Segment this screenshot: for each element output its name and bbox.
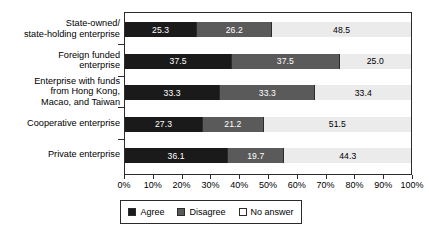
category-label: Enterprise with funds from Hong Kong, Ma… — [0, 76, 120, 107]
bar-value-label: 36.1 — [168, 151, 185, 161]
x-axis-tick-mark — [210, 175, 211, 179]
bar-segment-no-answer: 25.0 — [340, 54, 412, 69]
bar-row: 33.333.333.4 — [125, 85, 411, 100]
chart-legend: AgreeDisagreeNo answer — [120, 200, 302, 224]
x-axis-tick-label: 80% — [345, 180, 363, 190]
bar-segment-disagree: 37.5 — [232, 54, 339, 69]
bar-value-label: 25.0 — [367, 56, 384, 66]
bar-segment-no-answer: 48.5 — [272, 22, 411, 37]
x-axis-tick-label: 20% — [173, 180, 191, 190]
category-label: Cooperative enterprise — [0, 118, 120, 128]
bar-row: 36.119.744.3 — [125, 148, 411, 163]
bar-segment-disagree: 19.7 — [228, 148, 284, 163]
x-axis-tick-mark — [383, 175, 384, 179]
bar-segment-no-answer: 51.5 — [264, 117, 411, 132]
category-label: Private enterprise — [0, 149, 120, 159]
bar-value-label: 48.5 — [333, 25, 350, 35]
x-axis-tick-mark — [268, 175, 269, 179]
x-axis-tick-mark — [124, 175, 125, 179]
legend-label: Disagree — [189, 207, 225, 217]
x-axis-tick-mark — [239, 175, 240, 179]
bar-row: 25.326.248.5 — [125, 22, 411, 37]
bar-segment-agree: 25.3 — [125, 22, 197, 37]
legend-swatch-disagree — [177, 208, 185, 216]
legend-item-disagree: Disagree — [177, 207, 225, 217]
bar-value-label: 19.7 — [247, 151, 264, 161]
bar-value-label: 51.5 — [329, 119, 346, 129]
x-axis-tick-label: 90% — [374, 180, 392, 190]
bar-segment-agree: 27.3 — [125, 117, 203, 132]
x-axis-tick-label: 0% — [117, 180, 130, 190]
x-axis-tick-label: 70% — [317, 180, 335, 190]
bar-segment-no-answer: 33.4 — [315, 85, 411, 100]
x-axis-tick-label: 50% — [259, 180, 277, 190]
x-axis-tick-label: 100% — [400, 180, 423, 190]
legend-label: Agree — [140, 207, 164, 217]
bar-value-label: 27.3 — [155, 119, 172, 129]
x-axis-tick-label: 30% — [201, 180, 219, 190]
legend-swatch-no-answer — [239, 208, 247, 216]
bar-segment-disagree: 26.2 — [197, 22, 272, 37]
category-label: Foreign funded enterprise — [0, 50, 120, 71]
x-axis-tick-label: 60% — [288, 180, 306, 190]
bar-value-label: 33.3 — [259, 88, 276, 98]
bar-value-label: 33.4 — [355, 88, 372, 98]
bar-value-label: 26.2 — [226, 25, 243, 35]
bar-segment-agree: 37.5 — [125, 54, 232, 69]
bar-value-label: 37.5 — [170, 56, 187, 66]
category-label: State-owned/ state-holding enterprise — [0, 18, 120, 39]
x-axis-tick-label: 40% — [230, 180, 248, 190]
stacked-bar-chart: State-owned/ state-holding enterpriseFor… — [0, 0, 429, 239]
bar-segment-agree: 33.3 — [125, 85, 220, 100]
bar-value-label: 25.3 — [152, 25, 169, 35]
bar-row: 37.537.525.0 — [125, 54, 411, 69]
row-separator-tick — [118, 107, 124, 108]
x-axis-tick-mark — [412, 175, 413, 179]
bar-segment-disagree: 21.2 — [203, 117, 264, 132]
bar-segment-disagree: 33.3 — [220, 85, 315, 100]
bar-segment-no-answer: 44.3 — [284, 148, 411, 163]
row-separator-tick — [118, 76, 124, 77]
x-axis-tick-mark — [354, 175, 355, 179]
legend-item-no-answer: No answer — [239, 207, 294, 217]
bar-row: 27.321.251.5 — [125, 117, 411, 132]
legend-label: No answer — [251, 207, 294, 217]
bar-segment-agree: 36.1 — [125, 148, 228, 163]
x-axis-tick-label: 10% — [144, 180, 162, 190]
legend-swatch-agree — [128, 208, 136, 216]
bar-value-label: 33.3 — [164, 88, 181, 98]
plot-area: 25.326.248.537.537.525.033.333.333.427.3… — [124, 12, 412, 175]
x-axis-tick-mark — [182, 175, 183, 179]
row-separator-tick — [118, 139, 124, 140]
row-separator-tick — [118, 44, 124, 45]
bar-value-label: 44.3 — [339, 151, 356, 161]
bar-value-label: 21.2 — [224, 119, 241, 129]
x-axis-tick-mark — [297, 175, 298, 179]
x-axis-tick-mark — [153, 175, 154, 179]
legend-item-agree: Agree — [128, 207, 164, 217]
x-axis-tick-mark — [326, 175, 327, 179]
bar-value-label: 37.5 — [277, 56, 294, 66]
